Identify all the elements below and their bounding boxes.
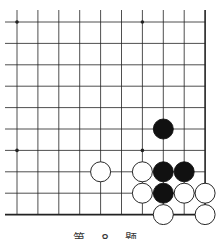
black-stone	[153, 119, 173, 139]
white-stone	[195, 205, 215, 225]
black-stone	[153, 183, 173, 203]
white-stone	[132, 162, 152, 182]
white-stone	[132, 183, 152, 203]
white-stone	[153, 205, 173, 225]
black-stone	[174, 162, 194, 182]
go-board	[0, 0, 216, 225]
star-point	[15, 149, 19, 153]
white-stone	[195, 183, 215, 203]
white-stone	[91, 162, 111, 182]
star-point	[15, 20, 19, 24]
star-point	[141, 149, 145, 153]
board-grid	[5, 10, 205, 215]
black-stone	[153, 162, 173, 182]
star-point	[141, 20, 145, 24]
white-stone	[174, 183, 194, 203]
puzzle-caption: 第 8 题	[0, 229, 216, 239]
